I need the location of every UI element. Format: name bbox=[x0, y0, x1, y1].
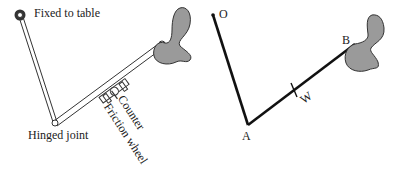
label-hinged-joint: Hinged joint bbox=[28, 129, 88, 141]
label-point-a: A bbox=[242, 130, 251, 142]
diagram-canvas bbox=[0, 0, 396, 169]
right-schematic bbox=[211, 13, 384, 125]
propeller-icon bbox=[154, 8, 191, 64]
label-point-o: O bbox=[219, 8, 228, 20]
label-point-b: B bbox=[342, 34, 350, 46]
hinge-joint-icon bbox=[52, 120, 58, 126]
label-fixed-to-table: Fixed to table bbox=[34, 7, 100, 19]
segment-oa bbox=[213, 15, 248, 125]
segment-ab bbox=[248, 44, 355, 125]
propeller-icon bbox=[345, 15, 384, 71]
